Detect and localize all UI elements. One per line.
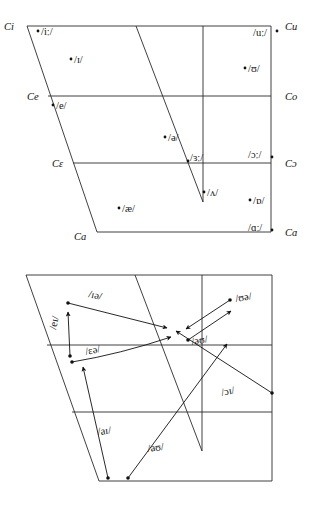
vowel-point-script-a-long: /ɑː/ [248,222,273,233]
vowel-dot [249,199,252,202]
quad-outline [27,26,271,232]
vowel-point-rev-epsilon-long: /ɜː/ [187,152,204,163]
corner-label-c-open-o: Cɔ [285,158,297,169]
glide-label: /aʊ/ [147,441,165,454]
vowel-dot [271,229,274,232]
glide-label: /ʊə/ [234,290,252,304]
vowel-label: /ɪ/ [74,54,83,65]
corner-label-ci: Ci [4,21,14,32]
vowel-dot [118,207,121,210]
corner-label-co: Co [285,91,297,102]
vowel-point-u-long: /uː/ [253,27,278,38]
vowel-dot [244,67,247,70]
vowel-label: /ʊ/ [248,63,260,74]
glide-label: /eɪ/ [47,315,61,330]
vowel-point-turned-v: /ʌ/ [203,187,219,198]
vowel-point-turned-script-a: /ɒ/ [249,195,265,206]
diphthong-glide-ea: /ɛə/ [70,337,171,364]
vowel-label: /uː/ [253,27,267,38]
vowel-label: /e/ [56,100,67,111]
front-central-divider [136,26,203,202]
glide-arrow [83,367,108,478]
glide-arrow [186,300,230,329]
vowel-dot [70,58,73,61]
vowel-point-i-long: /iː/ [37,26,53,37]
vowel-dot [164,136,167,139]
glide-label: /aɪ/ [97,424,112,437]
glide-label: /ɪə/ [88,288,104,302]
corner-label-ce: Ce [27,91,39,102]
vowel-dot [276,30,279,33]
diphthong-glide-ia: /ɪə/ [66,288,167,328]
corner-label-cu: Cu [285,21,297,32]
vowel-dot [271,156,274,159]
corner-label-ca: Ca [74,231,86,242]
corner-label-c-script-a: Cɑ [285,227,297,238]
vowel-point-ash: /æ/ [118,203,135,214]
diphthong-vowel-quadrilateral: /ɪə/ /eɪ/ /ɛə/ /aɪ/ /aʊ/ [0,254,312,506]
vowel-dot [52,104,55,107]
vowel-dot [203,191,206,194]
vowel-label: /æ/ [122,203,135,214]
glide-arrow [68,312,70,356]
front-central-divider [135,275,202,451]
diphthong-glide-ei: /eɪ/ [47,312,72,358]
vowel-label: /iː/ [41,26,53,37]
vowel-dot [187,160,190,163]
vowel-point-schwa: /ə/ [164,132,179,143]
glide-label: /ɛə/ [84,343,101,357]
vowel-label: /ɜː/ [190,152,203,163]
vowel-point-upsilon: /ʊ/ [244,63,260,74]
vowel-dot [37,30,40,33]
monophthong-vowel-quadrilateral: Ci Cu Ce Co Cɛ Cɔ Ca Cɑ /iː/ /ɪ/ /e/ /æ/ [0,0,312,254]
diphthong-glide-ai: /aɪ/ [83,367,112,480]
vowel-label: /ə/ [168,132,179,143]
glide-arrow [176,331,272,393]
glide-label: /ɔɪ/ [220,384,236,398]
vowel-point-e: /e/ [52,100,67,111]
vowel-label: /ɔː/ [248,149,261,160]
glide-arrow [128,344,227,478]
vowel-label: /ɑː/ [248,222,262,233]
vowel-point-small-cap-i: /ɪ/ [70,54,83,65]
vowel-label: /ɒ/ [253,195,264,206]
corner-label-c-epsilon: Cɛ [52,158,64,169]
glide-arrow [68,303,167,328]
diphthong-glide-ua: /ʊə/ [186,290,252,329]
vowel-point-open-o-long: /ɔː/ [248,149,273,160]
vowel-label: /ʌ/ [207,187,218,198]
vowel-charts-figure: Ci Cu Ce Co Cɛ Cɔ Ca Cɑ /iː/ /ɪ/ /e/ /æ/ [0,0,312,506]
